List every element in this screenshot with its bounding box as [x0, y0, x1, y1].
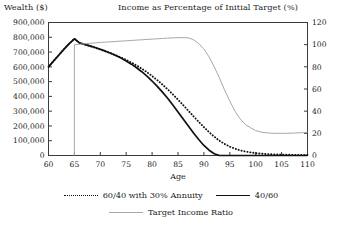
- legend-item-target-ratio: Target Income Ratio: [109, 207, 233, 217]
- plot-frame: [49, 23, 308, 156]
- legend-swatch-dotted-icon: [64, 191, 98, 198]
- y-tick-label: 300,000: [13, 107, 45, 116]
- y-tick-label: 600,000: [13, 63, 45, 72]
- y-tick-label: 400,000: [13, 92, 45, 101]
- x-tick-label: 110: [300, 160, 315, 169]
- x-tick-label: 90: [199, 160, 209, 169]
- x-tick-label: 80: [147, 160, 157, 169]
- series-line: [49, 39, 308, 156]
- legend-item-4060: 40/60: [216, 190, 279, 200]
- y-tick-label: 200,000: [13, 122, 45, 131]
- legend-label-4060: 40/60: [255, 190, 279, 200]
- y-tick-label: 100,000: [13, 136, 45, 145]
- legend-row-primary: 60/40 with 30% Annuity 40/60: [0, 186, 342, 203]
- y2-tick-label: 120: [312, 18, 327, 27]
- x-tick-label: 95: [225, 160, 235, 169]
- series-line: [49, 39, 308, 155]
- y-tick-label: 700,000: [13, 48, 45, 57]
- chart-figure: Wealth ($) Income as Percentage of Initi…: [0, 0, 342, 227]
- y-tick-label: 800,000: [13, 33, 45, 42]
- x-tick-label: 105: [274, 160, 289, 169]
- y-tick-label: 900,000: [13, 18, 45, 27]
- x-tick-label: 70: [95, 160, 105, 169]
- y2-tick-label: 40: [312, 107, 322, 116]
- y2-tick-label: 60: [312, 85, 322, 94]
- x-tick-label: 85: [173, 160, 183, 169]
- y-axis-left-ticks: 0100,000200,000300,000400,000500,000600,…: [13, 18, 52, 160]
- y2-tick-label: 20: [312, 129, 322, 138]
- x-axis-label: Age: [169, 172, 186, 181]
- y2-tick-label: 80: [312, 63, 322, 72]
- legend-swatch-gray-icon: [109, 208, 143, 215]
- legend-row-secondary: Target Income Ratio: [0, 203, 342, 220]
- y-tick-label: 500,000: [13, 77, 45, 86]
- legend-label-annuity: 60/40 with 30% Annuity: [103, 190, 203, 200]
- legend-item-annuity: 60/40 with 30% Annuity: [64, 190, 203, 200]
- legend-label-target-ratio: Target Income Ratio: [148, 207, 233, 217]
- y2-tick-label: 100: [312, 40, 327, 49]
- legend-swatch-solid-icon: [216, 191, 250, 198]
- x-tick-label: 60: [44, 160, 54, 169]
- chart-legend: 60/40 with 30% Annuity 40/60 Target Inco…: [0, 186, 342, 220]
- x-tick-label: 65: [70, 160, 80, 169]
- x-tick-label: 75: [121, 160, 131, 169]
- x-tick-label: 100: [248, 160, 263, 169]
- series-lines: [49, 38, 308, 156]
